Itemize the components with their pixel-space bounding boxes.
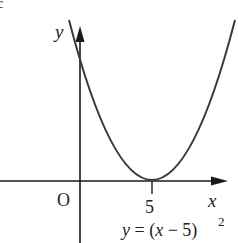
x-axis-arrow-icon (211, 177, 228, 186)
parabola-curve (69, 20, 235, 180)
y-axis-arrow-icon (76, 26, 85, 42)
x-axis-label: x (207, 190, 217, 211)
equation-label: y = (x − 5) (120, 220, 197, 241)
y-axis-label: y (53, 21, 64, 42)
tick-label-5: 5 (145, 197, 154, 217)
equation-exponent: 2 (218, 214, 225, 229)
partial-glyph: c (0, 0, 3, 11)
graph-figure: c y x O 5 y = (x − 5) 2 (0, 0, 238, 243)
origin-label: O (57, 190, 70, 210)
